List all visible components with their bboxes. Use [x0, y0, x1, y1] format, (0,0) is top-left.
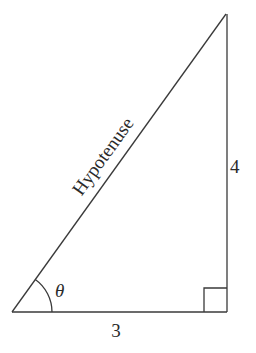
triangle	[12, 14, 227, 312]
angle-theta-label: θ	[55, 280, 64, 301]
hypotenuse-edge	[12, 14, 226, 312]
vertical-side-label: 4	[230, 156, 240, 177]
horizontal-side-label: 3	[111, 320, 121, 341]
right-triangle-diagram: θ Hypotenuse 4 3	[0, 0, 256, 353]
right-angle-marker	[204, 288, 227, 312]
angle-arc	[35, 280, 52, 313]
